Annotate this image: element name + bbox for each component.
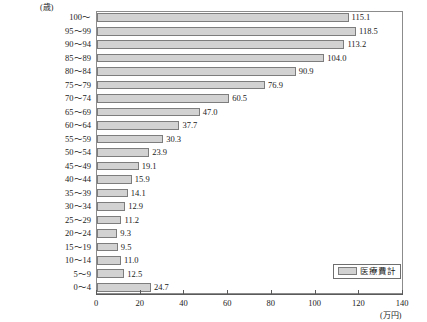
bar <box>97 256 121 265</box>
bar-value-label: 118.5 <box>359 27 378 36</box>
x-axis-unit-label: (万円) <box>380 309 401 320</box>
bar <box>97 67 296 76</box>
bar-row: 55〜5930.3 <box>0 132 427 145</box>
bar-value-label: 90.9 <box>299 67 314 76</box>
bar <box>97 283 151 292</box>
bar-and-value: 115.1 <box>97 11 370 24</box>
x-axis-tick <box>402 290 403 294</box>
category-label: 15〜19 <box>0 243 91 252</box>
bar-and-value: 11.2 <box>97 213 139 226</box>
bar <box>97 269 124 278</box>
bar-value-label: 60.5 <box>232 94 247 103</box>
bar-row: 25〜2911.2 <box>0 213 427 226</box>
legend-item-label: 医療費計 <box>360 267 396 276</box>
bar-value-label: 12.5 <box>127 270 142 279</box>
bar-and-value: 104.0 <box>97 51 346 64</box>
bar-and-value: 12.9 <box>97 200 143 213</box>
bar-row: 60〜6437.7 <box>0 119 427 132</box>
bar-and-value: 9.3 <box>97 227 131 240</box>
x-axis-tick-label: 100 <box>308 298 321 308</box>
category-label: 80〜84 <box>0 67 91 76</box>
bar-value-label: 113.2 <box>347 40 366 49</box>
category-label: 0〜4 <box>0 283 91 292</box>
x-axis-tick <box>183 290 184 294</box>
bar-and-value: 9.5 <box>97 240 131 253</box>
bar-row: 65〜6947.0 <box>0 105 427 118</box>
bar-row: 70〜7460.5 <box>0 92 427 105</box>
bar-value-label: 9.5 <box>121 243 132 252</box>
bar-row: 15〜199.5 <box>0 240 427 253</box>
x-axis-tick <box>227 290 228 294</box>
medical-expense-bar-chart: (歳) 100〜115.195〜99118.590〜94113.285〜8910… <box>0 0 427 322</box>
bar-and-value: 19.1 <box>97 159 157 172</box>
bar-and-value: 76.9 <box>97 78 283 91</box>
bar-row: 75〜7976.9 <box>0 78 427 91</box>
category-label: 30〜34 <box>0 202 91 211</box>
bar-rows-container: 100〜115.195〜99118.590〜94113.285〜89104.08… <box>0 11 427 294</box>
category-label: 90〜94 <box>0 40 91 49</box>
bar <box>97 148 149 157</box>
bar-row: 40〜4415.9 <box>0 173 427 186</box>
category-label: 50〜54 <box>0 148 91 157</box>
x-axis-tick-label: 140 <box>396 298 409 308</box>
bar-and-value: 24.7 <box>97 281 169 294</box>
category-label: 95〜99 <box>0 27 91 36</box>
legend-swatch-icon <box>338 267 357 275</box>
bar-value-label: 24.7 <box>154 283 169 292</box>
bar-row: 80〜8490.9 <box>0 65 427 78</box>
bar <box>97 229 117 238</box>
bar <box>97 94 229 103</box>
x-axis-tick-label: 0 <box>94 298 98 308</box>
category-label: 45〜49 <box>0 162 91 171</box>
category-label: 60〜64 <box>0 121 91 130</box>
bar <box>97 27 356 36</box>
bar <box>97 189 128 198</box>
category-label: 75〜79 <box>0 81 91 90</box>
category-label: 40〜44 <box>0 175 91 184</box>
bar-and-value: 23.9 <box>97 146 167 159</box>
category-label: 65〜69 <box>0 108 91 117</box>
bar-row: 45〜4919.1 <box>0 159 427 172</box>
category-label: 35〜39 <box>0 189 91 198</box>
bar-and-value: 12.5 <box>97 267 142 280</box>
x-axis-tick-label: 40 <box>179 298 188 308</box>
bar-row: 50〜5423.9 <box>0 146 427 159</box>
x-axis-tick <box>315 290 316 294</box>
bar-row: 35〜3914.1 <box>0 186 427 199</box>
bar-and-value: 30.3 <box>97 132 181 145</box>
bar-and-value: 113.2 <box>97 38 366 51</box>
bar-and-value: 118.5 <box>97 24 378 37</box>
bar <box>97 40 344 49</box>
bar-and-value: 60.5 <box>97 92 247 105</box>
bar-row: 20〜249.3 <box>0 227 427 240</box>
bar <box>97 175 132 184</box>
bar <box>97 202 125 211</box>
category-label: 20〜24 <box>0 229 91 238</box>
bar <box>97 108 200 117</box>
bar-and-value: 47.0 <box>97 105 218 118</box>
x-axis-tick <box>140 290 141 294</box>
x-axis-tick-label: 20 <box>135 298 144 308</box>
category-label: 100〜 <box>0 13 91 22</box>
bar <box>97 216 121 225</box>
bar-and-value: 37.7 <box>97 119 197 132</box>
bar-value-label: 23.9 <box>152 148 167 157</box>
bar <box>97 13 349 22</box>
bar-row: 90〜94113.2 <box>0 38 427 51</box>
bar-value-label: 104.0 <box>327 54 346 63</box>
category-label: 5〜9 <box>0 270 91 279</box>
bar-value-label: 37.7 <box>182 121 197 130</box>
x-axis-tick-label: 120 <box>352 298 365 308</box>
x-axis-tick <box>358 290 359 294</box>
category-label: 85〜89 <box>0 54 91 63</box>
bar-value-label: 76.9 <box>268 81 283 90</box>
bar <box>97 81 265 90</box>
bar-value-label: 15.9 <box>135 175 150 184</box>
bar <box>97 243 118 252</box>
bar-row: 85〜89104.0 <box>0 51 427 64</box>
bar-row: 95〜99118.5 <box>0 24 427 37</box>
bar-row: 30〜3412.9 <box>0 200 427 213</box>
category-label: 55〜59 <box>0 135 91 144</box>
bar-row: 100〜115.1 <box>0 11 427 24</box>
x-axis-tick-label: 80 <box>267 298 276 308</box>
